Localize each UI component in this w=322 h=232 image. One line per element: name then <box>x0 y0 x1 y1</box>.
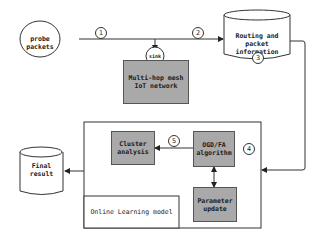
step-4-marker: 4 <box>243 143 255 155</box>
cluster-analysis-label: Cluster analysis <box>117 140 148 156</box>
parameter-update-label: Parameter update <box>197 197 232 213</box>
parameter-update-box: Parameter update <box>193 187 237 222</box>
ogd-fa-algorithm-label: OGD/FA algorithm <box>196 141 231 157</box>
mesh-network-box: Multi-hop mesh IoT network <box>123 60 189 104</box>
ogd-fa-algorithm-box: OGD/FA algorithm <box>193 131 235 167</box>
online-learning-model-label: Online Learning model <box>84 208 179 216</box>
cluster-analysis-box: Cluster analysis <box>111 131 155 165</box>
sink-label: sink <box>146 52 164 60</box>
step-3-marker: 3 <box>252 52 264 64</box>
step-5-marker: 5 <box>168 135 180 147</box>
step-1-marker: 1 <box>95 27 107 39</box>
probe-packets-label: probe packets <box>20 35 60 51</box>
mesh-network-label: Multi-hop mesh IoT network <box>129 74 184 90</box>
final-result-label: Final result <box>20 162 63 178</box>
step-2-marker: 2 <box>192 27 204 39</box>
